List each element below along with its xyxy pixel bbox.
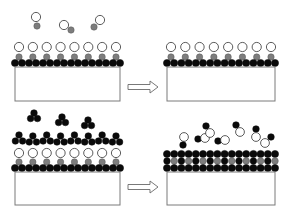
gray-atom [196, 54, 202, 60]
mixed-atom [250, 158, 257, 165]
mixed-atom [185, 158, 192, 165]
white-atom [166, 42, 175, 51]
white-atom [111, 42, 120, 51]
trimer-right-atom [33, 139, 40, 146]
trimer-left-atom [68, 138, 75, 145]
black-atom [102, 59, 109, 66]
layer-alternating-gray-black [164, 158, 279, 165]
gray-atom [239, 54, 245, 60]
trimer-right-atom [89, 139, 96, 146]
gray-atom [85, 159, 91, 165]
white-atom [111, 148, 120, 157]
black-atom [185, 164, 192, 171]
black-atom [264, 59, 271, 66]
trimer-right-atom [61, 139, 68, 146]
black-atom [88, 59, 95, 66]
black-atom [199, 164, 206, 171]
white-atom [70, 42, 79, 51]
white-atom [236, 128, 245, 137]
white-atom [59, 20, 68, 29]
black-atom [95, 164, 102, 171]
trimer-top-atom [85, 133, 92, 140]
mixed-atom [193, 158, 200, 165]
white-atom [195, 42, 204, 51]
trimer-right-atom [19, 138, 26, 145]
black-atom [18, 59, 25, 66]
black-atom [18, 164, 25, 171]
molecule-black-trimer [55, 114, 68, 126]
mixed-atom [214, 158, 221, 165]
black-atom [250, 59, 257, 66]
mixed-atom [243, 158, 250, 165]
gray-atom [85, 54, 91, 60]
substrate [167, 67, 275, 101]
molecule-black-trimer [81, 117, 94, 129]
black-atom [178, 59, 185, 66]
mixed-atom [200, 158, 207, 165]
white-atom [95, 15, 104, 24]
layer-gray [16, 159, 119, 165]
black-atom [203, 123, 210, 130]
gray-atom [30, 159, 36, 165]
black-atom [116, 164, 123, 171]
black-atom [46, 164, 53, 171]
trimer-top-atom [99, 132, 106, 139]
trimer-right-atom [75, 138, 82, 145]
trimer-left-atom [12, 138, 19, 145]
black-atom [39, 59, 46, 66]
trimer-left-atom [54, 139, 61, 146]
layer-white [166, 42, 275, 51]
black-atom [81, 59, 88, 66]
black-atom [257, 150, 264, 157]
layer-gray [168, 54, 274, 60]
black-atom [88, 164, 95, 171]
black-atom [271, 164, 278, 171]
white-atom [238, 42, 247, 51]
black-atom [271, 59, 278, 66]
black-atom [74, 164, 81, 171]
black-atom [264, 164, 271, 171]
black-atom [163, 150, 170, 157]
gray-atom [57, 159, 63, 165]
molecule-white-black-pair-vertical [180, 133, 189, 149]
black-atom [81, 164, 88, 171]
layer-base-black [163, 164, 278, 171]
black-atom [192, 164, 199, 171]
gray-atom [268, 54, 274, 60]
black-atom [233, 122, 240, 129]
molecule-white-gray-pair-tilted-left [91, 15, 105, 30]
black-atom [60, 164, 67, 171]
mixed-atom [257, 158, 264, 165]
gray-atom [68, 27, 74, 33]
black-atom [264, 150, 271, 157]
gray-atom [99, 159, 105, 165]
gray-atom [30, 54, 36, 60]
white-atom [14, 42, 23, 51]
black-atom [228, 150, 235, 157]
black-atom [60, 59, 67, 66]
mixed-atom [164, 158, 171, 165]
black-atom [207, 59, 214, 66]
gray-atom [57, 54, 63, 60]
black-atom [53, 59, 60, 66]
molecule-black-white-pair-horizontal [215, 136, 230, 145]
black-atom [39, 164, 46, 171]
white-atom [28, 148, 37, 157]
black-atom [74, 59, 81, 66]
black-atom [228, 164, 235, 171]
black-atom [53, 164, 60, 171]
trimer-top-atom [30, 133, 37, 140]
gray-atom [182, 54, 188, 60]
trimer-left-atom [26, 139, 33, 146]
black-atom [55, 119, 62, 126]
white-atom [98, 42, 107, 51]
white-atom [252, 133, 261, 142]
black-atom [221, 150, 228, 157]
white-atom [252, 42, 261, 51]
black-atom [192, 59, 199, 66]
black-atom [163, 59, 170, 66]
molecule-white-gray-pair-tilted-right [59, 20, 74, 33]
black-atom [199, 150, 206, 157]
black-atom [11, 59, 18, 66]
black-atom [163, 164, 170, 171]
